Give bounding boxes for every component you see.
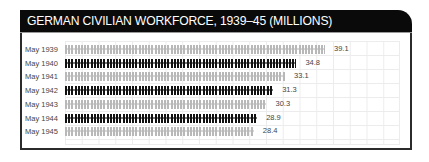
pictogram-bar (65, 72, 285, 81)
value-label: 31.3 (282, 85, 297, 94)
category-label: May 1940 (25, 59, 63, 68)
category-label: May 1941 (25, 72, 63, 81)
category-label: May 1945 (25, 127, 63, 136)
category-label: May 1944 (25, 114, 63, 123)
category-label: May 1942 (25, 86, 63, 95)
pictogram-bar (65, 45, 325, 54)
chart-title: GERMAN CIVILIAN WORKFORCE, 1939–45 (MILL… (27, 10, 332, 32)
value-label: 30.3 (275, 99, 290, 108)
value-label: 28.9 (266, 113, 281, 122)
pictogram-bar (65, 127, 254, 136)
category-label: May 1939 (25, 45, 63, 54)
bar-row: May 194133.1 (0, 71, 429, 81)
bar-row: May 194428.9 (0, 113, 429, 123)
category-label: May 1943 (25, 100, 63, 109)
value-label: 28.4 (263, 126, 278, 135)
bar-row: May 194330.3 (0, 99, 429, 109)
pictogram-bar (65, 100, 266, 109)
chart-title-bar: GERMAN CIVILIAN WORKFORCE, 1939–45 (MILL… (20, 10, 412, 32)
bar-row: May 194034.8 (0, 58, 429, 68)
value-label: 33.1 (294, 71, 309, 80)
value-label: 39.1 (334, 44, 349, 53)
bar-row: May 194528.4 (0, 126, 429, 136)
pictogram-bar (65, 114, 257, 123)
bar-row: May 194231.3 (0, 85, 429, 95)
value-label: 34.8 (305, 58, 320, 67)
pictogram-bar (65, 59, 296, 68)
pictogram-bar (65, 86, 273, 95)
bar-row: May 193939.1 (0, 44, 429, 54)
